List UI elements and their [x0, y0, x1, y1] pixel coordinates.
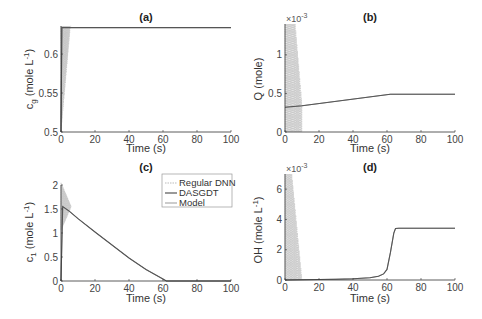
panel-b-ylabel: Q (mole): [252, 58, 264, 101]
series-model: [61, 28, 231, 132]
panel-c-ylabel: c1 (mole L-1): [22, 202, 38, 263]
series-model: [285, 228, 455, 280]
y-tick-label: 0: [276, 275, 282, 286]
panel-b-exponent: ×10-3: [286, 12, 308, 24]
panel-c-xlabel: Time (s): [126, 292, 166, 304]
panel-d-exponent: ×10-3: [286, 162, 308, 174]
panel-b: 02040608010000.51 (b) ×10-3 Time (s) Q (…: [252, 11, 464, 154]
y-tick-label: 2: [52, 180, 58, 191]
x-tick-label: 20: [313, 134, 325, 145]
x-tick-label: 80: [191, 283, 203, 294]
panel-a-plot: 0204060801000.50.550.6: [39, 26, 240, 145]
y-tick-label: 0.55: [39, 88, 59, 99]
x-tick-label: 0: [282, 134, 288, 145]
x-tick-label: 100: [447, 282, 464, 293]
panel-b-plot: 02040608010000.51: [268, 24, 464, 145]
y-tick-label: 1.5: [44, 204, 58, 215]
y-tick-label: 0.5: [44, 252, 58, 263]
panel-a-ylabel: cg (mole L-1): [22, 49, 38, 110]
y-tick-label: 1: [52, 228, 58, 239]
x-tick-label: 80: [415, 134, 427, 145]
panel-d-ylabel: OH (mole L-1): [251, 196, 264, 263]
panel-b-xlabel: Time (s): [350, 142, 390, 154]
y-tick-label: 0: [276, 127, 282, 138]
panel-d-plot: 0204060801000246: [276, 174, 463, 293]
panel-d-title: (d): [363, 161, 377, 173]
y-tick-label: 0.6: [44, 49, 58, 60]
panel-a-title: (a): [139, 11, 153, 23]
series-dasgdt: [285, 228, 455, 280]
legend: Regular DNN DASGDT Model: [162, 174, 236, 208]
y-tick-label: 0.5: [44, 127, 58, 138]
y-tick-label: 2: [276, 244, 282, 255]
x-tick-label: 80: [415, 282, 427, 293]
panel-a-xlabel: Time (s): [126, 142, 166, 154]
series-model: [285, 94, 455, 107]
x-tick-label: 20: [89, 134, 101, 145]
y-tick-label: 1: [276, 49, 282, 60]
series-dasgdt: [61, 28, 231, 132]
panel-c: 02040608010000.511.52 (c) Time (s) c1 (m…: [22, 161, 240, 304]
x-tick-label: 100: [223, 283, 240, 294]
x-tick-label: 100: [223, 134, 240, 145]
series-regular-dnn: [285, 24, 302, 132]
figure: 0204060801000.50.550.6 (a) Time (s) cg (…: [0, 0, 482, 319]
y-tick-label: 6: [276, 184, 282, 195]
panel-a: 0204060801000.50.550.6 (a) Time (s) cg (…: [22, 11, 240, 154]
y-tick-label: 4: [276, 214, 282, 225]
x-tick-label: 20: [89, 283, 101, 294]
x-tick-label: 0: [58, 134, 64, 145]
series-regular-dnn: [285, 174, 302, 280]
series-regular-dnn: [61, 26, 71, 130]
x-tick-label: 0: [282, 282, 288, 293]
series-dasgdt: [61, 207, 231, 281]
x-tick-label: 100: [447, 134, 464, 145]
y-tick-label: 0.5: [268, 88, 282, 99]
panel-b-title: (b): [363, 11, 377, 23]
panel-c-title: (c): [139, 161, 153, 173]
x-tick-label: 0: [58, 283, 64, 294]
x-tick-label: 20: [313, 282, 325, 293]
panel-d-xlabel: Time (s): [350, 292, 390, 304]
series-dasgdt: [285, 94, 455, 107]
x-tick-label: 80: [191, 134, 203, 145]
y-tick-label: 0: [52, 276, 58, 287]
legend-item-model: Model: [179, 197, 205, 208]
panel-d: 0204060801000246 (d) ×10-3 Time (s) OH (…: [251, 161, 464, 304]
